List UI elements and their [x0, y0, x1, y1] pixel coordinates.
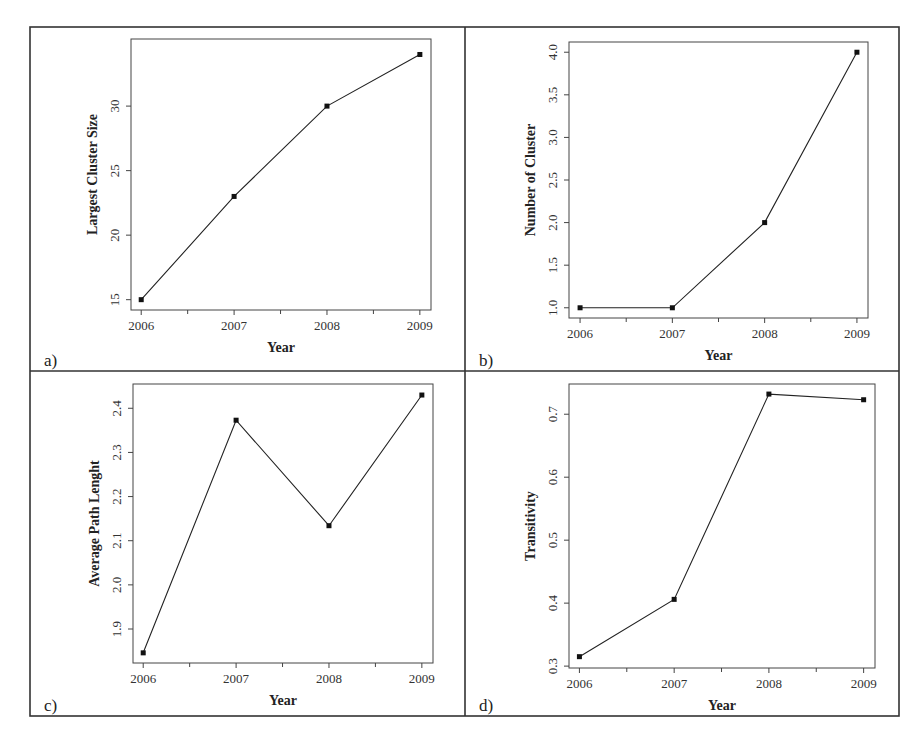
plot-area [569, 384, 875, 668]
x-tick-label: 2009 [409, 671, 435, 686]
data-point-marker [417, 52, 422, 57]
panel-label: c) [44, 696, 57, 715]
x-tick-label: 2006 [566, 676, 593, 691]
data-point-marker [326, 523, 331, 528]
y-axis-label: Number of Cluster [523, 124, 538, 237]
data-point-marker [141, 650, 146, 655]
data-point-marker [672, 597, 677, 602]
x-tick-label: 2007 [659, 326, 686, 341]
data-point-marker [766, 392, 771, 397]
panel-a: 200620072008200915202530 Largest Cluster… [44, 39, 433, 370]
x-axis-label: Year [708, 698, 736, 713]
y-tick-label: 3.0 [545, 129, 560, 145]
panel-b: 20062007200820091.01.52.02.53.03.54.0 Nu… [479, 42, 870, 370]
data-point-marker [139, 297, 144, 302]
data-point-marker [762, 220, 767, 225]
x-tick-label: 2008 [756, 676, 782, 691]
x-tick-label: 2007 [661, 676, 688, 691]
data-point-marker [577, 654, 582, 659]
y-tick-label: 3.5 [545, 87, 560, 103]
data-point-marker [234, 418, 239, 423]
data-point-marker [861, 397, 866, 402]
x-tick-label: 2007 [223, 671, 250, 686]
data-point-marker [854, 50, 859, 55]
y-axis-label: Transitivity [523, 491, 538, 561]
data-series-line [141, 55, 420, 300]
data-point-marker [419, 393, 424, 398]
x-tick-label: 2007 [221, 318, 248, 333]
y-tick-label: 2.3 [109, 444, 124, 460]
x-axis-label: Year [705, 348, 733, 363]
y-tick-label: 0.5 [545, 532, 560, 548]
x-tick-label: 2009 [851, 676, 877, 691]
x-tick-label: 2009 [844, 326, 870, 341]
plot-area [569, 42, 868, 318]
y-tick-label: 30 [107, 100, 122, 113]
plot-area [131, 39, 431, 310]
y-tick-label: 1.5 [545, 257, 560, 273]
panel-d: 20062007200820090.30.40.50.60.7 Transiti… [479, 384, 877, 715]
y-tick-label: 2.0 [545, 214, 560, 230]
y-tick-label: 1.0 [545, 300, 560, 316]
y-tick-label: 2.5 [545, 172, 560, 188]
data-point-marker [324, 104, 329, 109]
x-tick-label: 2008 [314, 318, 340, 333]
data-point-marker [232, 194, 237, 199]
y-tick-label: 1.9 [109, 621, 124, 637]
plot-area [133, 384, 433, 663]
data-point-marker [578, 305, 583, 310]
y-tick-label: 15 [107, 293, 122, 306]
x-axis-label: Year [269, 693, 297, 708]
y-axis-label: Largest Cluster Size [85, 114, 100, 235]
y-axis-label: Average Path Lenght [87, 460, 102, 587]
x-tick-label: 2006 [130, 671, 157, 686]
panel-c: 20062007200820091.92.02.12.22.32.4 Avera… [44, 384, 435, 715]
panel-label: a) [44, 351, 57, 370]
x-tick-label: 2008 [316, 671, 342, 686]
y-tick-label: 0.3 [545, 658, 560, 674]
y-tick-label: 2.1 [109, 533, 124, 549]
y-tick-label: 4.0 [545, 44, 560, 60]
data-series-line [580, 52, 857, 308]
x-tick-label: 2006 [128, 318, 155, 333]
x-axis-label: Year [267, 340, 295, 355]
data-series-line [579, 394, 863, 657]
x-tick-label: 2006 [567, 326, 594, 341]
y-tick-label: 2.4 [109, 400, 124, 417]
panel-label: d) [479, 696, 493, 715]
x-tick-label: 2009 [407, 318, 433, 333]
y-tick-label: 2.0 [109, 577, 124, 593]
panel-label: b) [479, 351, 493, 370]
data-point-marker [670, 305, 675, 310]
figure-grid: 200620072008200915202530 Largest Cluster… [0, 0, 917, 744]
y-tick-label: 25 [107, 164, 122, 177]
y-tick-label: 0.4 [545, 595, 560, 612]
y-tick-label: 0.7 [545, 406, 560, 423]
y-tick-label: 20 [107, 229, 122, 242]
y-tick-label: 2.2 [109, 488, 124, 504]
data-series-line [143, 395, 422, 653]
y-tick-label: 0.6 [545, 469, 560, 486]
x-tick-label: 2008 [752, 326, 778, 341]
